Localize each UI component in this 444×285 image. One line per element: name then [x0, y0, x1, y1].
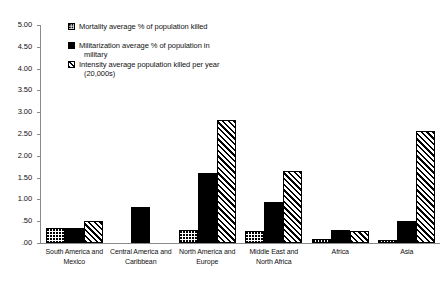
bar: [283, 171, 302, 243]
bar: [378, 240, 397, 243]
y-axis-tick-mark: [37, 25, 40, 26]
legend-label-mortality: Mortality average % of population killed: [79, 22, 208, 32]
bar: [198, 173, 217, 243]
y-axis-tick-mark: [37, 156, 40, 157]
y-axis-tick-label: 1.00: [18, 194, 32, 203]
legend-swatch-hatch-icon: [68, 61, 75, 68]
y-axis-tick-label: 2.00: [18, 151, 32, 160]
legend-swatch-dotted-icon: [68, 23, 75, 30]
legend-label-intensity: Intensity average population killed per …: [79, 60, 219, 79]
bar: [179, 230, 198, 243]
x-axis-line: [40, 243, 440, 244]
bar: [84, 221, 103, 243]
bar: [217, 120, 236, 243]
y-axis-tick-label: 3.50: [18, 85, 32, 94]
legend-label-militarization-line2: military: [79, 50, 210, 60]
chart-legend: Mortality average % of population killed…: [68, 22, 298, 79]
x-axis-labels: South America and MexicoCentral America …: [41, 247, 440, 281]
y-axis-tick-label: 4.00: [18, 64, 32, 73]
bar: [264, 202, 283, 243]
bar: [245, 231, 264, 243]
bar-group-bars: [374, 25, 441, 243]
bar: [131, 207, 150, 243]
x-axis-label: Middle East and North Africa: [241, 247, 308, 266]
y-axis-tick-mark: [37, 69, 40, 70]
legend-label-intensity-line2: (20,000s): [79, 69, 219, 79]
y-axis-tick-mark: [37, 90, 40, 91]
bar-group: [307, 25, 374, 243]
legend-item-mortality: Mortality average % of population killed: [68, 22, 298, 32]
x-axis-label: North America and Europe: [174, 247, 241, 266]
y-axis-tick-mark: [37, 134, 40, 135]
y-axis-tick-mark: [37, 112, 40, 113]
legend-label-intensity-line1: Intensity average population killed per …: [79, 60, 219, 69]
bar: [312, 239, 331, 243]
legend-item-militarization: Militarization average % of population i…: [68, 41, 298, 60]
bar: [331, 230, 350, 243]
legend-swatch-solid-icon: [68, 42, 75, 49]
x-axis-label: Africa: [307, 247, 374, 257]
legend-label-militarization: Militarization average % of population i…: [79, 41, 210, 60]
bar: [397, 221, 416, 243]
x-axis-label: Central America and Caribbean: [108, 247, 175, 266]
y-axis-tick-mark: [37, 178, 40, 179]
legend-item-intensity: Intensity average population killed per …: [68, 60, 298, 79]
y-axis-tick-mark: [37, 221, 40, 222]
y-axis-tick-label: 4.50: [18, 42, 32, 51]
y-axis-tick-label: 1.50: [18, 173, 32, 182]
y-axis-tick-label: 2.50: [18, 129, 32, 138]
x-axis-label: Asia: [374, 247, 441, 257]
y-axis-tick-mark: [37, 199, 40, 200]
legend-label-militarization-line1: Militarization average % of population i…: [79, 41, 210, 50]
y-axis-tick-label: 3.00: [18, 107, 32, 116]
y-axis-tick-label: .00: [22, 238, 32, 247]
y-axis-tick-label: 5.00: [18, 20, 32, 29]
x-axis-label: South America and Mexico: [41, 247, 108, 266]
bar: [65, 228, 84, 243]
y-axis-tick-label: .50: [22, 216, 32, 225]
y-axis-tick-mark: [37, 47, 40, 48]
bar: [416, 131, 435, 243]
bar: [46, 228, 65, 243]
bar: [350, 231, 369, 243]
bar-group-bars: [307, 25, 374, 243]
bar-group: [374, 25, 441, 243]
bar-chart: 5.004.504.003.503.002.502.001.501.00.50.…: [0, 0, 444, 285]
